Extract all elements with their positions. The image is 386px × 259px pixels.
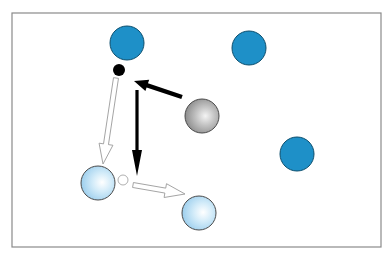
blue-circle-1	[110, 26, 144, 60]
black-dot	[113, 64, 125, 76]
light-blue-sphere-2	[182, 196, 216, 230]
light-blue-sphere-1	[81, 166, 115, 200]
blue-circle-3	[280, 137, 314, 171]
hollow-dot	[118, 175, 128, 185]
blue-circle-2	[232, 31, 266, 65]
diagram-canvas	[0, 0, 386, 259]
gray-sphere	[185, 99, 219, 133]
